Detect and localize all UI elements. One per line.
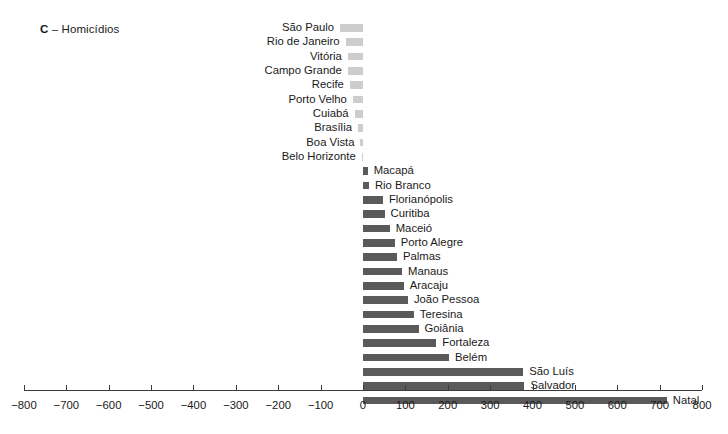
bar-negative bbox=[348, 67, 363, 75]
bar-row: Manaus bbox=[0, 265, 728, 279]
x-axis-line bbox=[24, 390, 702, 391]
bar-positive bbox=[363, 339, 436, 347]
bar-label: João Pessoa bbox=[414, 292, 479, 306]
bar-negative bbox=[350, 81, 363, 89]
x-axis-tick bbox=[490, 385, 491, 390]
bar-label: Curitiba bbox=[391, 206, 430, 220]
bar-positive bbox=[363, 325, 419, 333]
bar-row: Recife bbox=[0, 78, 728, 92]
bar-negative bbox=[362, 153, 363, 161]
bar-label: Florianópolis bbox=[389, 192, 453, 206]
bar-row: Rio de Janeiro bbox=[0, 35, 728, 49]
x-axis-tick bbox=[151, 385, 152, 390]
bar-row: João Pessoa bbox=[0, 293, 728, 307]
x-axis-tick bbox=[66, 385, 67, 390]
bar-row: Goiânia bbox=[0, 322, 728, 336]
bar-positive bbox=[363, 196, 383, 204]
x-axis-tick-label: 800 bbox=[672, 399, 728, 411]
bar-label: Vitória bbox=[310, 49, 342, 63]
bar-label: Rio de Janeiro bbox=[267, 34, 340, 48]
bar-label: São Paulo bbox=[282, 20, 334, 34]
bar-label: Teresina bbox=[420, 307, 463, 321]
bar-row: Fortaleza bbox=[0, 336, 728, 350]
x-axis-tick bbox=[702, 385, 703, 390]
bar-row: Porto Alegre bbox=[0, 236, 728, 250]
bar-label: Campo Grande bbox=[265, 63, 342, 77]
bar-row: Rio Branco bbox=[0, 179, 728, 193]
x-axis-tick bbox=[321, 385, 322, 390]
bar-row: Belo Horizonte bbox=[0, 150, 728, 164]
bar-label: Maceió bbox=[396, 221, 432, 235]
bar-positive bbox=[363, 368, 523, 376]
bar-positive bbox=[363, 239, 395, 247]
bar-label: Belém bbox=[455, 350, 487, 364]
bar-positive bbox=[363, 182, 369, 190]
x-axis-tick bbox=[109, 385, 110, 390]
x-axis-tick bbox=[278, 385, 279, 390]
bar-positive bbox=[363, 354, 449, 362]
x-axis-tick bbox=[660, 385, 661, 390]
bar-label: Manaus bbox=[408, 264, 448, 278]
chart-plot-area: São PauloRio de JaneiroVitóriaCampo Gran… bbox=[0, 0, 728, 434]
bar-negative bbox=[340, 24, 363, 32]
bar-row: Aracaju bbox=[0, 279, 728, 293]
figure-panel-c: C – Homicídios São PauloRio de JaneiroVi… bbox=[0, 0, 728, 434]
bar-positive bbox=[363, 382, 524, 390]
bar-row: Florianópolis bbox=[0, 193, 728, 207]
bar-positive bbox=[363, 210, 385, 218]
bar-row: Cuiabá bbox=[0, 107, 728, 121]
x-axis-tick bbox=[448, 385, 449, 390]
bar-positive bbox=[363, 225, 390, 233]
bar-row: São Paulo bbox=[0, 21, 728, 35]
bar-label: Porto Velho bbox=[288, 92, 346, 106]
bar-negative bbox=[355, 110, 363, 118]
x-axis-tick bbox=[533, 385, 534, 390]
bar-row: Macapá bbox=[0, 164, 728, 178]
bar-label: Aracaju bbox=[410, 278, 448, 292]
bar-positive bbox=[363, 167, 368, 175]
bar-label: Porto Alegre bbox=[401, 235, 463, 249]
bar-row: Curitiba bbox=[0, 207, 728, 221]
bar-positive bbox=[363, 268, 402, 276]
bar-positive bbox=[363, 311, 414, 319]
bar-label: Belo Horizonte bbox=[282, 149, 356, 163]
bar-label: Goiânia bbox=[425, 321, 464, 335]
bar-negative bbox=[353, 96, 363, 104]
bar-row: Palmas bbox=[0, 250, 728, 264]
x-axis-tick bbox=[236, 385, 237, 390]
x-axis-tick bbox=[193, 385, 194, 390]
bar-label: Palmas bbox=[403, 249, 441, 263]
bar-label: Cuiabá bbox=[313, 106, 349, 120]
bar-positive bbox=[363, 282, 404, 290]
bar-label: Brasília bbox=[314, 120, 352, 134]
bar-positive bbox=[363, 296, 408, 304]
bar-row: Campo Grande bbox=[0, 64, 728, 78]
x-axis-tick bbox=[363, 385, 364, 390]
bar-row: Teresina bbox=[0, 308, 728, 322]
x-axis-tick bbox=[405, 385, 406, 390]
bar-negative bbox=[348, 53, 363, 61]
bar-label: Recife bbox=[312, 77, 344, 91]
bar-label: São Luís bbox=[529, 364, 574, 378]
bar-label: Macapá bbox=[374, 163, 414, 177]
bar-label: Boa Vista bbox=[306, 135, 354, 149]
bar-row: Belém bbox=[0, 351, 728, 365]
bar-row: Maceió bbox=[0, 222, 728, 236]
bar-row: Boa Vista bbox=[0, 136, 728, 150]
bar-label: Rio Branco bbox=[375, 178, 431, 192]
x-axis-tick bbox=[617, 385, 618, 390]
bar-negative bbox=[358, 124, 363, 132]
x-axis-tick bbox=[24, 385, 25, 390]
bar-row: Porto Velho bbox=[0, 93, 728, 107]
bar-row: São Luís bbox=[0, 365, 728, 379]
bar-negative bbox=[346, 38, 363, 46]
bar-positive bbox=[363, 253, 397, 261]
bar-row: Brasília bbox=[0, 121, 728, 135]
bar-negative bbox=[360, 139, 363, 147]
bar-row: Vitória bbox=[0, 50, 728, 64]
x-axis-tick bbox=[575, 385, 576, 390]
bar-label: Fortaleza bbox=[442, 335, 489, 349]
